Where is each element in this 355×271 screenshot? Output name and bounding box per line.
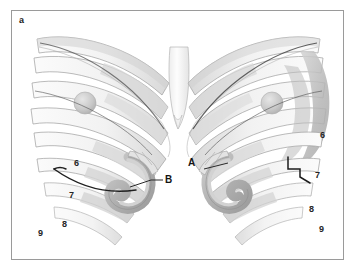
figure-frame: a 6 7 8 9 6 7 8 9 B A bbox=[11, 10, 344, 260]
rib-label-right-6: 6 bbox=[320, 131, 325, 140]
callout-label-b: B bbox=[165, 175, 172, 185]
rib-label-left-6: 6 bbox=[74, 159, 79, 168]
callout-label-a: A bbox=[188, 158, 195, 168]
rib-label-left-7: 7 bbox=[69, 191, 74, 200]
rib-label-left-8: 8 bbox=[62, 220, 67, 229]
sternum-body bbox=[169, 47, 189, 129]
left-rib-cage bbox=[31, 37, 170, 245]
rib-label-right-7: 7 bbox=[315, 171, 320, 180]
figure-root: a 6 7 8 9 6 7 8 9 B A bbox=[0, 0, 355, 271]
panel-letter-a: a bbox=[19, 15, 24, 25]
rib-label-right-9: 9 bbox=[319, 225, 324, 234]
sternum-xiphoid bbox=[169, 47, 189, 129]
rib-label-right-8: 8 bbox=[309, 205, 314, 214]
rib-label-left-9: 9 bbox=[38, 229, 43, 238]
